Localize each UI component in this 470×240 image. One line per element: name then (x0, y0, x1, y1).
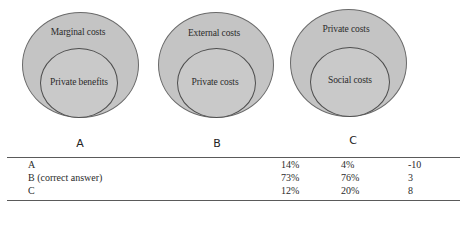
diagram-b-inner-label: Private costs (192, 77, 239, 87)
row-label: B (correct answer) (28, 172, 102, 183)
row-value-2: 76% (341, 172, 359, 183)
table-bottom-rule (7, 200, 460, 201)
table-top-rule (7, 157, 460, 158)
row-value-1: 12% (281, 185, 299, 196)
option-label-a: A (76, 137, 84, 150)
diagram-c-inner-label: Social costs (328, 75, 372, 85)
option-label-b: B (213, 137, 221, 150)
table-row: A 14% 4% -10 (0, 159, 470, 172)
option-label-c: C (349, 134, 357, 147)
row-value-3: -10 (408, 159, 421, 170)
row-label: A (28, 159, 35, 170)
row-value-2: 4% (341, 159, 354, 170)
row-value-3: 3 (408, 172, 413, 183)
row-value-1: 73% (281, 172, 299, 183)
diagram-b-outer-label: External costs (188, 28, 240, 38)
row-value-2: 20% (341, 185, 359, 196)
diagram-a-inner-label: Private benefits (50, 77, 108, 87)
row-label: C (28, 185, 35, 196)
row-value-3: 8 (408, 185, 413, 196)
diagram-a-outer-label: Marginal costs (51, 27, 106, 37)
row-value-1: 14% (281, 159, 299, 170)
table-row: B (correct answer) 73% 76% 3 (0, 172, 470, 185)
diagram-c-outer-label: Private costs (323, 24, 370, 34)
table-row: C 12% 20% 8 (0, 185, 470, 198)
